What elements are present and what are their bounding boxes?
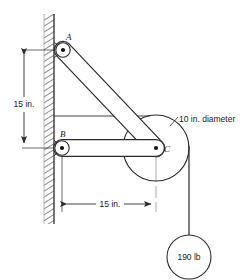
pin-b-dot	[60, 146, 64, 150]
member-bc-body	[54, 140, 165, 157]
horizontal-dimension: 15 in.	[67, 199, 151, 209]
vertical-dimension: 15 in.	[14, 55, 35, 143]
pin-c-dot	[154, 146, 158, 150]
joint-label-b: B	[60, 129, 66, 139]
wall-hatching	[44, 14, 54, 224]
pulley-diameter-label: 10 in. diameter	[179, 114, 235, 124]
engineering-figure: A B C 15 in. 15 in. 10 in. diameter 190 …	[0, 0, 250, 280]
figure-canvas: A B C 15 in. 15 in. 10 in. diameter 190 …	[0, 0, 250, 280]
horizontal-dimension-label: 15 in.	[100, 199, 121, 209]
pulley-diameter-note: 10 in. diameter	[170, 114, 235, 126]
weight-label: 190 lb	[177, 252, 200, 262]
member-bc	[54, 140, 165, 157]
joint-label-c: C	[164, 144, 171, 154]
wall	[44, 14, 54, 224]
joint-label-a: A	[65, 32, 72, 42]
pin-a-dot	[61, 48, 65, 52]
hanging-weight: 190 lb	[167, 235, 211, 279]
vertical-dimension-label: 15 in.	[14, 99, 35, 109]
